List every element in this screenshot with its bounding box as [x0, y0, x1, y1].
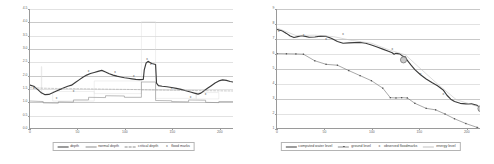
legend-label: normal depth [98, 145, 119, 149]
depth-series-svg: xxxxxxxxxxx [30, 9, 233, 128]
waterlevel-legend: computed water levelground levelxobserve… [280, 142, 460, 151]
floodmark-x-marker: x [88, 69, 90, 73]
floodmark-x-marker: x [325, 37, 327, 41]
series-point-marker [407, 97, 408, 98]
series-point-marker [454, 118, 455, 119]
legend-item-waterlevel-0[interactable]: computed water level [285, 145, 332, 149]
series-point-marker [414, 103, 415, 104]
legend-item-depth-3[interactable]: xflood marks [164, 145, 190, 149]
y-tick-label: 2.0 [23, 74, 30, 77]
series-line-energy-level [277, 28, 480, 107]
legend-label: critical depth [138, 145, 158, 149]
y-tick-label: 4.0 [23, 21, 30, 24]
legend-key-swatch [125, 145, 136, 149]
series-point-marker [444, 113, 445, 114]
legend-label: flood marks [171, 145, 190, 149]
x-tick-label: 200 [464, 128, 470, 134]
series-point-marker [395, 97, 396, 98]
legend-x-marker-icon: x [164, 145, 169, 149]
series-point-marker [348, 70, 349, 71]
x-tick-label: 0 [29, 128, 31, 134]
series-point-marker [477, 127, 478, 128]
floodmark-x-marker: x [442, 92, 444, 96]
x-tick-label: 50 [76, 128, 80, 134]
series-point-marker [390, 97, 391, 98]
annotation-box [141, 22, 155, 91]
legend-label: ground level [351, 145, 371, 149]
legend-line-sample [125, 146, 136, 147]
series-point-marker [295, 53, 296, 54]
x-tick-label: 150 [416, 128, 422, 134]
y-tick-label: 1.0 [23, 101, 30, 104]
depth-chart-panel: 0.00.51.01.52.02.53.03.54.04.50501001502… [0, 0, 247, 164]
legend-item-depth-2[interactable]: critical depth [125, 145, 158, 149]
depth-plot-area: 0.00.51.01.52.02.53.03.54.04.50501001502… [29, 9, 233, 129]
series-point-marker [371, 80, 372, 81]
legend-x-marker-icon: x [377, 145, 382, 149]
structure-circle-marker [400, 57, 406, 63]
legend-key-swatch [285, 145, 296, 149]
series-point-marker [303, 54, 304, 55]
structure-circle-marker [478, 106, 480, 112]
legend-label: energy level [436, 145, 455, 149]
legend-line-sample [57, 146, 68, 147]
x-tick-label: 50 [323, 128, 327, 134]
series-point-marker [426, 108, 427, 109]
series-point-marker [337, 65, 338, 66]
legend-key-swatch [57, 145, 68, 149]
series-point-marker [435, 109, 436, 110]
series-point-marker [286, 53, 287, 54]
legend-item-waterlevel-3[interactable]: energy level [423, 145, 455, 149]
legend-line-sample [85, 146, 96, 147]
series-point-marker [277, 53, 278, 54]
legend-item-waterlevel-2[interactable]: xobserved floodmarks [377, 145, 417, 149]
legend-key-swatch [338, 145, 349, 149]
waterlevel-plot-area: 123456789050100150200 xxxxxxx [276, 9, 480, 129]
x-tick-label: 100 [122, 128, 128, 134]
series-point-marker [465, 123, 466, 124]
legend-item-depth-1[interactable]: normal depth [85, 145, 119, 149]
x-tick-label: 0 [276, 128, 278, 134]
chart-sheet: 0.00.51.01.52.02.53.03.54.04.50501001502… [0, 0, 494, 164]
legend-label: computed water level [298, 145, 332, 149]
floodmark-x-marker: x [146, 57, 148, 61]
floodmark-x-marker: x [114, 70, 116, 74]
legend-key-swatch [423, 145, 434, 149]
waterlevel-chart-panel: 123456789050100150200 xxxxxxx computed w… [247, 0, 494, 164]
y-tick-label: 2.5 [23, 61, 30, 64]
y-tick-label: 3.0 [23, 47, 30, 50]
series-point-marker [401, 97, 402, 98]
legend-item-depth-0[interactable]: depth [57, 145, 79, 149]
series-point-marker [359, 75, 360, 76]
legend-line-sample [423, 146, 434, 147]
legend-item-waterlevel-1[interactable]: ground level [338, 145, 371, 149]
floodmark-x-marker: x [133, 74, 135, 78]
series-line-computed-water-level [277, 30, 480, 109]
x-tick-label: 100 [369, 128, 375, 134]
y-tick-label: 1.5 [23, 87, 30, 90]
y-tick-label: 3.5 [23, 34, 30, 37]
x-tick-label: 150 [169, 128, 175, 134]
x-tick-label: 200 [217, 128, 223, 134]
annotation-box [94, 81, 141, 94]
floodmark-x-marker: x [342, 32, 344, 36]
y-tick-label: 0.5 [23, 114, 30, 117]
series-point-marker [314, 60, 315, 61]
y-tick-label: 4.5 [23, 7, 30, 10]
waterlevel-series-svg: xxxxxxx [277, 9, 480, 128]
floodmark-x-marker: x [205, 92, 207, 96]
floodmark-x-marker: x [56, 96, 58, 100]
legend-line-sample [285, 146, 296, 147]
series-point-marker [382, 87, 383, 88]
series-point-marker [325, 64, 326, 65]
legend-label: depth [70, 145, 79, 149]
legend-key-swatch [85, 145, 96, 149]
depth-legend: depthnormal depthcritical depthxflood ma… [52, 142, 195, 151]
legend-label: observed floodmarks [384, 145, 417, 149]
series-line-ground-level [277, 54, 480, 128]
floodmark-x-marker: x [391, 47, 393, 51]
